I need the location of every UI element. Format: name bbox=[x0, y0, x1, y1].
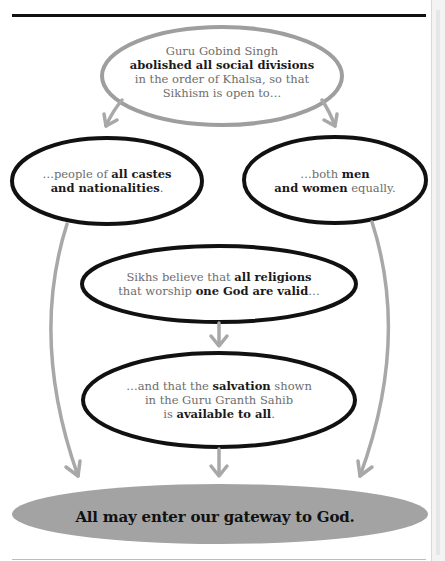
left-node-post: . bbox=[160, 181, 164, 195]
arrow-top-left bbox=[104, 100, 122, 126]
top-node-line2: abolished all social divisions bbox=[130, 58, 314, 72]
middle-node-text: Sikhs believe that all religions that wo… bbox=[89, 270, 349, 298]
final-node-text: All may enter our gateway to God. bbox=[40, 508, 390, 526]
lower-node-post3: . bbox=[271, 407, 275, 421]
left-node-bold2: and nationalities bbox=[51, 181, 160, 195]
lower-node-post1: shown bbox=[271, 379, 312, 393]
arrow-right-long bbox=[358, 222, 388, 476]
middle-node-post2: … bbox=[308, 284, 320, 298]
middle-node-pre2: that worship bbox=[118, 284, 195, 298]
lower-node-bold1: salvation bbox=[213, 379, 271, 393]
arrow-lower-down bbox=[211, 449, 227, 476]
middle-node-bold1: all religions bbox=[234, 270, 311, 284]
left-node-bold1: all castes bbox=[111, 167, 171, 181]
right-node-text: …both men and women equally. bbox=[250, 167, 420, 195]
lower-node-text: …and that the salvation shown in the Gur… bbox=[99, 379, 339, 421]
right-node-post: equally. bbox=[348, 181, 396, 195]
arrow-middle-down bbox=[211, 323, 227, 346]
lower-node-pre3: is bbox=[163, 407, 176, 421]
middle-node-bold2: one God are valid bbox=[196, 284, 309, 298]
lower-node-bold3: available to all bbox=[176, 407, 271, 421]
top-node-line1: Guru Gobind Singh bbox=[112, 44, 332, 58]
right-node-bold1: men bbox=[342, 167, 370, 181]
top-node-line3: in the order of Khalsa, so that bbox=[112, 72, 332, 86]
top-node-text: Guru Gobind Singh abolished all social d… bbox=[112, 44, 332, 100]
lower-node-pre1: …and that the bbox=[126, 379, 212, 393]
middle-node-pre1: Sikhs believe that bbox=[126, 270, 234, 284]
top-node-line4: Sikhism is open to… bbox=[112, 86, 332, 100]
lower-node-line2: in the Guru Granth Sahib bbox=[99, 393, 339, 407]
right-node-pre: …both bbox=[300, 167, 341, 181]
arrow-top-right bbox=[322, 100, 337, 126]
left-node-pre: …people of bbox=[42, 167, 111, 181]
right-node-bold2: and women bbox=[274, 181, 347, 195]
arrow-left-long bbox=[51, 224, 80, 476]
left-node-text: …people of all castes and nationalities. bbox=[22, 167, 192, 195]
